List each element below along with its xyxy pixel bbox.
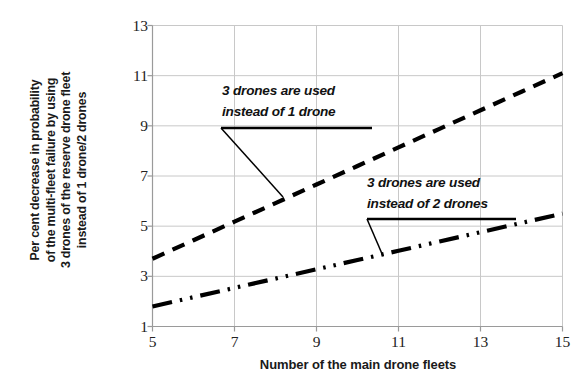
x-tick-label: 13 [461, 334, 501, 350]
x-tick-label: 9 [297, 334, 337, 350]
annotation-leader-upper [221, 128, 283, 197]
series-line-1 [153, 73, 563, 259]
x-tick-label: 5 [133, 334, 173, 350]
annotation-upper-line-1: 3 drones are used [222, 80, 335, 101]
chart-figure: Per cent decrease in probability of the … [0, 0, 586, 389]
data-series [153, 73, 563, 306]
x-axis-title: Number of the main drone fleets [150, 357, 566, 372]
annotation-upper: 3 drones are used instead of 1 drone [222, 80, 335, 122]
axis-ticks [148, 26, 563, 332]
plot-area [0, 0, 586, 389]
annotation-lower-line-1: 3 drones are used [367, 172, 488, 193]
annotation-upper-line-2: instead of 1 drone [222, 101, 335, 122]
annotation-leader-lower [367, 219, 383, 256]
x-tick-label: 7 [215, 334, 255, 350]
series-line-2 [153, 214, 563, 307]
x-axis-tick-labels: 579111315 [0, 334, 586, 356]
x-tick-label: 15 [543, 334, 583, 350]
annotation-lower-line-2: instead of 2 drones [367, 193, 488, 214]
gridlines [153, 26, 563, 327]
x-tick-label: 11 [379, 334, 419, 350]
annotation-lower: 3 drones are used instead of 2 drones [367, 172, 488, 214]
